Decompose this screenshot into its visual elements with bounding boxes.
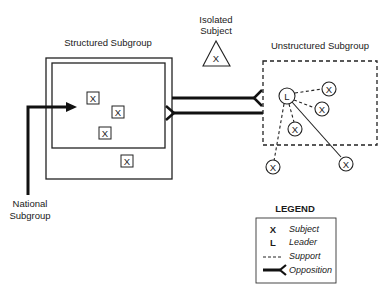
svg-text:Isolated: Isolated (199, 14, 232, 25)
subject-circle: X (315, 102, 329, 116)
structured-outer-box (46, 58, 172, 179)
svg-text:X: X (343, 159, 350, 170)
legend-leader-symbol: L (270, 237, 276, 248)
arrowhead-icon (66, 102, 77, 112)
unstructured-subgroup-title: Unstructured Subgroup (271, 40, 369, 51)
svg-text:X: X (115, 107, 122, 118)
legend-opposition-label: Opposition (289, 265, 332, 275)
unstructured-subgroup: Unstructured Subgroup L X X X X (263, 40, 377, 174)
leader-circle: L (279, 88, 295, 104)
legend-leader-label: Leader (289, 237, 318, 247)
svg-text:X: X (102, 128, 109, 139)
opposition-fork-icon (254, 90, 262, 106)
subject-box: X (99, 127, 111, 139)
legend: LEGEND X Subject L Leader Support Opposi… (256, 203, 336, 283)
subject-box: X (112, 106, 124, 118)
national-subgroup-label: Subgroup (9, 210, 50, 221)
structured-subgroup-title: Structured Subgroup (64, 37, 152, 48)
subject-box: X (87, 92, 99, 104)
subject-box: X (121, 155, 133, 167)
legend-subject-label: Subject (289, 224, 320, 234)
subject-circle: X (339, 157, 353, 171)
svg-text:X: X (326, 84, 333, 95)
svg-text:X: X (213, 53, 220, 64)
group-structure-diagram: Structured Subgroup X X X X National Sub… (0, 0, 390, 297)
national-subgroup-label: National (13, 198, 48, 209)
legend-title: LEGEND (275, 203, 315, 214)
isolated-subject: Isolated Subject X (199, 14, 232, 66)
subject-circle: X (322, 82, 336, 96)
subject-circle: X (288, 122, 302, 136)
opposition-fork-icon (166, 106, 174, 120)
svg-text:Subject: Subject (200, 25, 232, 36)
svg-text:X: X (270, 162, 277, 173)
national-subgroup-arrow: National Subgroup (9, 102, 77, 221)
opposition-lines (166, 90, 263, 120)
svg-text:L: L (284, 91, 289, 102)
svg-text:X: X (319, 104, 326, 115)
svg-text:X: X (292, 124, 299, 135)
svg-text:X: X (124, 156, 131, 167)
svg-text:X: X (90, 93, 97, 104)
legend-subject-symbol: X (270, 224, 277, 235)
legend-support-label: Support (289, 251, 321, 261)
subject-circle: X (266, 160, 280, 174)
